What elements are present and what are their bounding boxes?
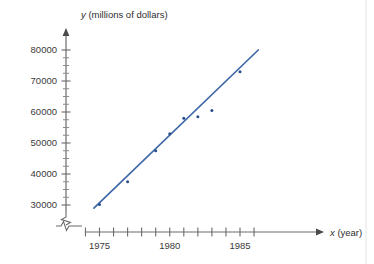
y-axis-tick-label: 80000 <box>31 44 57 55</box>
scatter-plot-figure: 3000040000500006000070000800001975198019… <box>0 0 374 264</box>
data-point <box>182 117 185 120</box>
data-point <box>210 109 213 112</box>
x-axis-tick-label: 1980 <box>159 240 180 251</box>
y-axis-title: y (millions of dollars) <box>80 9 168 20</box>
data-point <box>239 70 242 73</box>
data-point <box>168 132 171 135</box>
x-axis-title-unit: (year) <box>335 227 362 238</box>
data-point <box>126 180 129 183</box>
x-axis-tick-label: 1985 <box>229 240 250 251</box>
data-point <box>154 149 157 152</box>
x-axis-tick-label: 1975 <box>89 240 110 251</box>
y-axis-tick-label: 40000 <box>31 168 57 179</box>
x-axis-arrow-icon <box>316 229 324 236</box>
y-axis-tick-label: 50000 <box>31 137 57 148</box>
x-axis-title: x (year) <box>329 227 362 238</box>
y-axis-tick-label: 30000 <box>31 199 57 210</box>
y-axis-arrow-icon <box>63 28 70 36</box>
y-axis-tick-label: 70000 <box>31 75 57 86</box>
data-point <box>98 203 101 206</box>
y-axis-tick-label: 60000 <box>31 106 57 117</box>
trend-line <box>94 50 258 208</box>
y-axis-title-unit: (millions of dollars) <box>86 9 168 20</box>
data-point <box>196 115 199 118</box>
